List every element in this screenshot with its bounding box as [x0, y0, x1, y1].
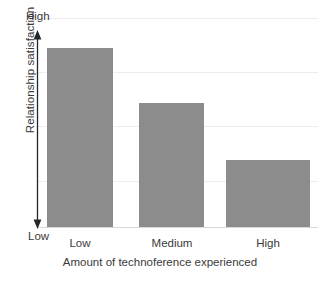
x-tick-label-high: High: [238, 237, 298, 249]
gridline: [37, 18, 318, 19]
bar-chart: High Low Relationship satisfaction Low M…: [0, 0, 320, 286]
x-tick-label-low: Low: [50, 237, 110, 249]
bar-high: [226, 160, 310, 227]
x-axis-title: Amount of technoference experienced: [0, 256, 320, 268]
y-axis-low-label: Low: [28, 230, 49, 242]
bar-medium: [139, 103, 204, 227]
x-axis-baseline: [37, 227, 318, 228]
x-tick-label-medium: Medium: [140, 237, 204, 249]
y-axis-title: Relationship satisfaction: [24, 0, 36, 150]
bar-low: [47, 48, 113, 227]
